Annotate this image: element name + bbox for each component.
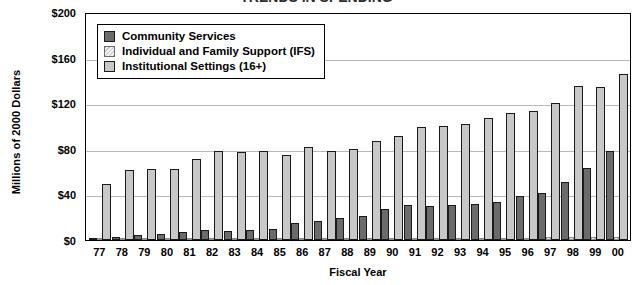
bar-cs xyxy=(561,182,569,240)
bar-cs xyxy=(538,193,546,240)
x-tick-label: 78 xyxy=(111,246,134,258)
x-tick-label: 95 xyxy=(494,246,517,258)
bar-cs xyxy=(224,231,232,240)
x-tick-label: 88 xyxy=(336,246,359,258)
x-tick-label: 82 xyxy=(201,246,224,258)
bar-inst xyxy=(125,170,134,240)
y-tick-label: $200 xyxy=(30,8,76,18)
bar-inst xyxy=(372,141,381,240)
x-tick-label: 86 xyxy=(291,246,314,258)
x-tick-label: 79 xyxy=(133,246,156,258)
bar-group xyxy=(336,14,358,240)
bar-group xyxy=(426,14,448,240)
x-tick-label: 90 xyxy=(381,246,404,258)
chart-title-cropped: TRENDS IN SPENDING xyxy=(0,0,633,7)
bar-inst xyxy=(237,152,246,240)
bar-cs xyxy=(291,223,299,240)
chart-title-text: TRENDS IN SPENDING xyxy=(0,0,633,5)
bar-cs xyxy=(336,218,344,240)
x-tick-label: 92 xyxy=(426,246,449,258)
bar-inst xyxy=(192,159,201,240)
bar-inst xyxy=(259,151,268,240)
x-tick-label: 98 xyxy=(561,246,584,258)
bar-group xyxy=(358,14,380,240)
y-axis-title: Millions of 2000 Dollars xyxy=(10,32,22,232)
bar-cs xyxy=(606,151,614,240)
bar-inst xyxy=(417,127,426,240)
chart-legend: Community ServicesIndividual and Family … xyxy=(97,24,325,79)
x-tick-label: 81 xyxy=(178,246,201,258)
x-axis-title: Fiscal Year xyxy=(85,266,631,278)
legend-item: Institutional Settings (16+) xyxy=(104,59,315,74)
bar-cs xyxy=(516,196,524,240)
y-axis-tick-labels: $200$160$120$80$40$0 xyxy=(30,0,76,285)
x-tick-label: 94 xyxy=(471,246,494,258)
bar-cs xyxy=(493,202,501,240)
bar-cs xyxy=(112,237,120,240)
chart-figure: TRENDS IN SPENDING Millions of 2000 Doll… xyxy=(0,0,633,285)
bar-cs xyxy=(404,205,412,240)
bar-inst xyxy=(619,74,628,240)
bar-inst xyxy=(282,155,291,241)
x-tick-label: 84 xyxy=(246,246,269,258)
legend-label: Institutional Settings (16+) xyxy=(122,60,266,73)
bar-inst xyxy=(327,151,336,240)
x-tick-label: 99 xyxy=(584,246,607,258)
bar-inst xyxy=(439,126,448,240)
x-tick-label: 93 xyxy=(449,246,472,258)
x-tick-label: 85 xyxy=(268,246,291,258)
bar-cs xyxy=(583,168,591,240)
bar-inst xyxy=(147,169,156,240)
y-tick-label: $160 xyxy=(30,54,76,64)
bar-inst xyxy=(551,103,560,240)
x-tick-label: 00 xyxy=(607,246,630,258)
legend-label: Community Services xyxy=(122,30,236,43)
bar-cs xyxy=(269,229,277,240)
bar-cs xyxy=(448,205,456,240)
bar-inst xyxy=(170,169,179,240)
bar-group xyxy=(583,14,605,240)
legend-swatch-inst xyxy=(104,61,115,72)
bar-inst xyxy=(214,151,223,240)
x-tick-label: 80 xyxy=(156,246,179,258)
legend-label: Individual and Family Support (IFS) xyxy=(122,45,315,58)
bar-group xyxy=(561,14,583,240)
bar-inst xyxy=(461,124,470,240)
bar-cs xyxy=(314,221,322,240)
bar-inst xyxy=(304,147,313,240)
legend-swatch-ifs xyxy=(104,46,115,57)
x-tick-label: 87 xyxy=(313,246,336,258)
bar-cs xyxy=(134,235,142,240)
bar-group xyxy=(538,14,560,240)
bar-inst xyxy=(596,87,605,240)
legend-item: Individual and Family Support (IFS) xyxy=(104,44,315,59)
bar-cs xyxy=(201,230,209,240)
bar-group xyxy=(516,14,538,240)
x-tick-label: 96 xyxy=(516,246,539,258)
x-tick-label: 91 xyxy=(404,246,427,258)
bar-cs xyxy=(381,209,389,240)
y-tick-label: $120 xyxy=(30,99,76,109)
bar-inst xyxy=(349,149,358,240)
bar-inst xyxy=(484,118,493,240)
bar-group xyxy=(471,14,493,240)
bar-cs xyxy=(157,234,165,240)
x-tick-label: 83 xyxy=(223,246,246,258)
bar-inst xyxy=(574,86,583,240)
bar-inst xyxy=(394,136,403,240)
y-tick-label: $0 xyxy=(30,236,76,246)
bar-group xyxy=(403,14,425,240)
y-tick-label: $80 xyxy=(30,145,76,155)
bar-inst xyxy=(529,111,538,240)
x-axis-tick-labels: 7778798081828384858687888990919293949596… xyxy=(85,246,631,258)
bar-group xyxy=(381,14,403,240)
bar-cs xyxy=(179,232,187,240)
bar-cs xyxy=(246,230,254,240)
x-tick-label: 89 xyxy=(359,246,382,258)
legend-swatch-cs xyxy=(104,31,115,42)
bar-cs xyxy=(426,206,434,240)
legend-item: Community Services xyxy=(104,29,315,44)
bar-inst xyxy=(506,113,515,240)
x-tick-label: 77 xyxy=(88,246,111,258)
bar-group xyxy=(605,14,627,240)
